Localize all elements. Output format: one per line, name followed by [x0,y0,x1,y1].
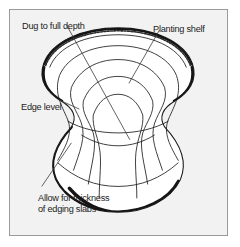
excavation-body [42,28,194,212]
label-allow-for-thickness: Allow for thickness of edging slabs [38,193,148,214]
outer-silhouette [42,28,194,212]
label-allow-line-2: of edging slabs [38,204,148,215]
label-edge-level: Edge level [21,102,61,113]
label-planting-shelf: Planting shelf [153,24,205,35]
label-allow-line-1: Allow for thickness [38,193,148,204]
label-dug-to-full-depth: Dug to full depth [22,21,85,32]
figure-frame: Dug to full depth Planting shelf Edge le… [9,9,228,236]
illustration-root: Dug to full depth Planting shelf Edge le… [0,0,240,247]
